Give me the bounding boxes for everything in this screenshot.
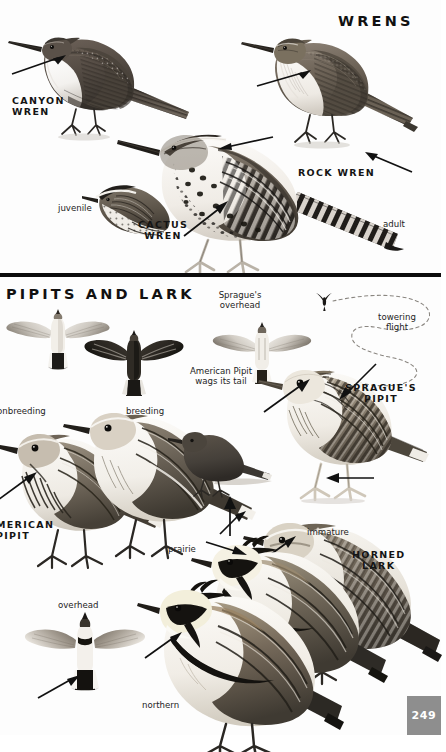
species-label-line1: MERICAN [0, 519, 54, 530]
species-label-american-pipit: MERICAN PIPIT [0, 519, 54, 541]
species-label-line1: CACTUS [138, 219, 188, 230]
annotation-northern: northern [142, 700, 179, 710]
section-divider [0, 273, 441, 277]
american-pipit-silhouette-illustration [168, 428, 273, 498]
species-label-line1: SPRAGUE'S [345, 382, 417, 393]
page-number: 249 [407, 696, 441, 735]
horned-lark-overhead-illustration [20, 610, 150, 692]
american-pipit-overhead-dark-illustration [84, 328, 184, 398]
section-title-pipits-lark: PIPITS AND LARK [6, 286, 195, 302]
annotation-line2: wags its tail [195, 376, 246, 386]
horned-lark-northern-illustration [136, 572, 351, 752]
species-label-line2: WREN [12, 106, 49, 117]
species-label-spragues-pipit: SPRAGUE'S PIPIT [345, 382, 417, 404]
species-label-canyon-wren: CANYON WREN [12, 95, 65, 117]
species-label-line2: WREN [144, 230, 181, 241]
annotation-spragues-overhead: Sprague's overhead [186, 290, 294, 311]
annotation-nonbreeding: onbreeding [0, 406, 46, 416]
annotation-line2: flight [386, 322, 408, 332]
annotation-towering-flight: towering flight [358, 312, 436, 333]
species-label-line2: PIPIT [364, 393, 398, 404]
annotation-juvenile: juvenile [58, 203, 92, 213]
annotation-overhead: overhead [58, 600, 98, 610]
annotation-line1: Sprague's [219, 290, 262, 300]
annotation-line1: towering [378, 312, 416, 322]
flight-bird-silhouette [316, 293, 332, 311]
annotation-line1: American Pipit [190, 366, 252, 376]
annotation-line2: overhead [220, 300, 260, 310]
species-label-cactus-wren: CACTUS WREN [138, 219, 188, 241]
annotation-adult: adult [383, 219, 405, 229]
species-label-line2: PIPIT [0, 530, 30, 541]
annotation-prairie: prairie [168, 544, 196, 554]
species-label-line1: CANYON [12, 95, 65, 106]
spragues-pipit-illustration [255, 352, 440, 504]
